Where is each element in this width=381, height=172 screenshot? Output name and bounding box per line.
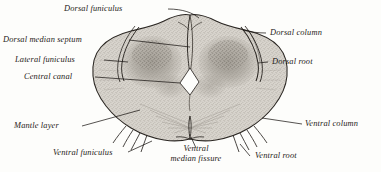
leader-ventral-root (240, 144, 250, 156)
label-dorsal-median-septum: Dorsal median septum (3, 35, 82, 45)
label-ventral-root: Ventral root (255, 151, 297, 161)
label-ventral-column: Ventral column (305, 119, 358, 129)
label-ventral-median-fissure-line2: median fissure (171, 154, 222, 163)
label-ventral-funiculus: Ventral funiculus (53, 148, 113, 158)
label-dorsal-funiculus: Dorsal funiculus (64, 4, 122, 14)
label-dorsal-root: Dorsal root (272, 57, 313, 67)
leader-ventral-funiculus (128, 141, 152, 152)
label-mantle-layer: Mantle layer (14, 121, 59, 131)
leader-ventral-column (262, 118, 302, 124)
label-lateral-funiculus: Lateral funiculus (15, 55, 75, 65)
label-dorsal-column: Dorsal column (270, 28, 322, 38)
cord-tissue (93, 14, 287, 152)
label-ventral-median-fissure: Ventral median fissure (160, 144, 232, 163)
label-ventral-median-fissure-line1: Ventral (183, 144, 208, 153)
label-central-canal: Central canal (24, 72, 72, 82)
